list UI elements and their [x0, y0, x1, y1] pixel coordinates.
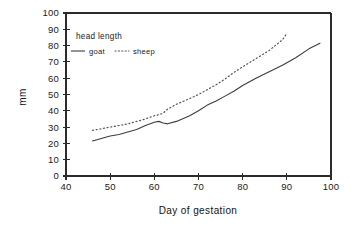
- x-tick-label: 70: [193, 181, 204, 192]
- data-series-group: [93, 33, 320, 141]
- x-tick-label: 50: [105, 181, 116, 192]
- series-line-goat: [93, 43, 320, 141]
- y-tick-label: 30: [48, 122, 59, 133]
- legend-label-sheep: sheep: [133, 47, 155, 56]
- y-tick-label: 80: [48, 40, 59, 51]
- x-tick-label: 80: [237, 181, 248, 192]
- y-tick-label: 50: [48, 89, 59, 100]
- x-tick-label: 60: [149, 181, 160, 192]
- y-tick-label: 90: [48, 24, 59, 35]
- x-axis: 405060708090100 Day of gestation: [61, 13, 340, 216]
- y-tick-label: 60: [48, 73, 59, 84]
- legend-title: head length: [76, 32, 122, 41]
- legend: head length goat sheep: [71, 32, 155, 56]
- y-tick-label: 40: [48, 105, 59, 116]
- y-axis: 0102030405060708090100 mm: [17, 7, 70, 181]
- line-chart: 0102030405060708090100 mm 40506070809010…: [0, 0, 354, 227]
- y-tick-label: 100: [43, 7, 59, 18]
- y-tick-label: 20: [48, 138, 59, 149]
- legend-label-goat: goat: [89, 47, 105, 56]
- x-tick-label: 40: [61, 181, 72, 192]
- y-tick-label: 10: [48, 154, 59, 165]
- y-tick-label: 70: [48, 56, 59, 67]
- x-tick-label: 90: [281, 181, 292, 192]
- x-axis-title: Day of gestation: [159, 205, 238, 216]
- y-tick-label: 0: [54, 170, 59, 181]
- x-tick-label: 100: [323, 181, 339, 192]
- y-axis-title: mm: [17, 88, 28, 105]
- chart-container: 0102030405060708090100 mm 40506070809010…: [0, 0, 354, 227]
